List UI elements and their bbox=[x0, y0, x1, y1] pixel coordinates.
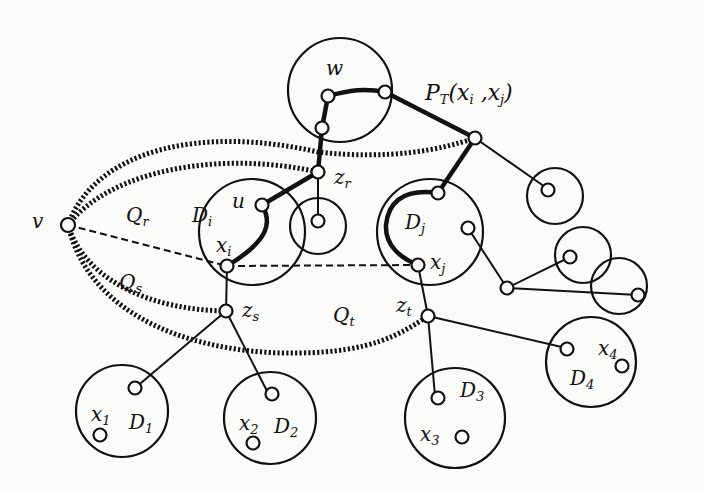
node-D4-left bbox=[561, 343, 574, 356]
node-xj bbox=[412, 259, 425, 272]
node-zs bbox=[220, 305, 233, 318]
label-D4: D4 bbox=[570, 368, 594, 391]
node-xi bbox=[221, 260, 234, 273]
label-Di: Di bbox=[192, 205, 212, 228]
label-D3: D3 bbox=[460, 380, 484, 403]
label-xi: xi bbox=[216, 235, 231, 258]
cluster-D3 bbox=[405, 368, 505, 468]
label-zr: zr bbox=[334, 167, 351, 190]
cluster-right-top bbox=[527, 168, 583, 224]
node-x3 bbox=[456, 431, 469, 444]
node-D3-top bbox=[432, 392, 445, 405]
label-zt: zt bbox=[396, 295, 412, 318]
label-w: w bbox=[326, 58, 343, 78]
label-xj: xj bbox=[430, 252, 445, 275]
label-x3: x3 bbox=[420, 424, 440, 447]
node-Dj-right bbox=[462, 222, 475, 235]
node-zr-child bbox=[312, 215, 325, 228]
node-zr bbox=[312, 166, 325, 179]
node-right-branch bbox=[501, 282, 514, 295]
label-zs: zs bbox=[242, 300, 259, 323]
label-Qs: Qs bbox=[119, 272, 142, 295]
label-Dj: Dj bbox=[405, 212, 425, 235]
node-D1-top bbox=[129, 382, 142, 395]
label-path-PT: PT(xi ,xj) bbox=[425, 82, 513, 106]
label-x1: x1 bbox=[91, 404, 111, 427]
node-junction bbox=[469, 132, 482, 145]
path-PT bbox=[227, 90, 475, 266]
label-x2: x2 bbox=[239, 413, 259, 436]
cluster-D2 bbox=[224, 372, 316, 464]
label-Qt: Qt bbox=[333, 305, 355, 328]
label-D1: D1 bbox=[129, 412, 153, 435]
dotted-paths bbox=[68, 138, 475, 353]
diagram-canvas: w PT(xi ,xj) v u Qr Qs Qt Di xi Dj xj zr… bbox=[0, 0, 704, 493]
label-Qr: Qr bbox=[126, 205, 149, 228]
node-right-low bbox=[632, 289, 645, 302]
node-w1 bbox=[322, 90, 335, 103]
node-u bbox=[256, 199, 269, 212]
cluster-Di bbox=[199, 179, 305, 285]
label-x4: x4 bbox=[598, 338, 618, 361]
node-D2-top bbox=[266, 388, 279, 401]
cluster-D1 bbox=[76, 365, 168, 457]
node-v bbox=[61, 218, 75, 232]
label-D2: D2 bbox=[274, 416, 298, 439]
node-w3 bbox=[316, 122, 329, 135]
node-w2 bbox=[379, 86, 392, 99]
node-zt bbox=[422, 310, 435, 323]
node-right-mid bbox=[564, 251, 577, 264]
node-x2 bbox=[247, 437, 260, 450]
node-right-top bbox=[542, 184, 555, 197]
label-u: u bbox=[232, 191, 245, 211]
cluster-right-low bbox=[591, 258, 647, 314]
node-x1 bbox=[94, 429, 107, 442]
label-v: v bbox=[32, 211, 43, 231]
node-Dj-top bbox=[432, 187, 445, 200]
